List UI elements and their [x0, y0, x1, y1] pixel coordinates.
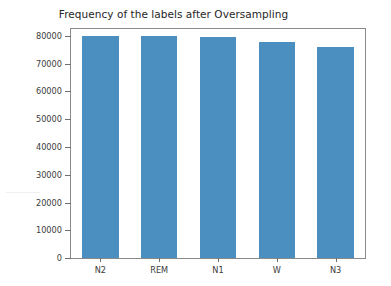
- y-axis-tick-mark: [65, 119, 71, 120]
- x-axis-tick-mark: [159, 258, 160, 262]
- x-axis-tick-mark: [277, 258, 278, 262]
- x-axis-tick-label: REM: [150, 265, 168, 275]
- y-axis-tick-label: 40000: [36, 142, 62, 152]
- y-axis-tick-label: 30000: [36, 170, 62, 180]
- y-axis-tick-label: 60000: [36, 86, 62, 96]
- bar: [200, 37, 236, 258]
- y-axis-tick-mark: [65, 36, 71, 37]
- y-axis-tick-label: 0: [57, 253, 62, 263]
- x-axis-tick-label: W: [273, 265, 281, 275]
- margin-artifact: [6, 192, 40, 193]
- y-axis-tick-mark: [65, 64, 71, 65]
- x-axis-tick-mark: [336, 258, 337, 262]
- x-axis-tick-label: N3: [330, 265, 341, 275]
- plot-axes: 0100002000030000400005000060000700008000…: [70, 28, 366, 259]
- x-axis-tick-mark: [100, 258, 101, 262]
- y-axis-tick-label: 80000: [36, 31, 62, 41]
- y-axis-tick-label: 50000: [36, 114, 62, 124]
- plot-area: 0100002000030000400005000060000700008000…: [71, 29, 365, 258]
- bar: [82, 36, 118, 258]
- y-axis-tick-mark: [65, 175, 71, 176]
- bar: [317, 47, 353, 258]
- x-axis-tick-label: N2: [95, 265, 106, 275]
- y-axis-tick-label: 10000: [36, 225, 62, 235]
- y-axis-tick-mark: [65, 91, 71, 92]
- y-axis-tick-mark: [65, 147, 71, 148]
- bar: [259, 42, 295, 259]
- figure-canvas: Frequency of the labels after Oversampli…: [0, 0, 391, 286]
- y-axis-tick-mark: [65, 258, 71, 259]
- y-axis-tick-label: 70000: [36, 59, 62, 69]
- y-axis-tick-mark: [65, 230, 71, 231]
- chart-title: Frequency of the labels after Oversampli…: [0, 8, 369, 20]
- bar: [141, 36, 177, 258]
- y-axis-tick-mark: [65, 203, 71, 204]
- y-axis-tick-label: 20000: [36, 198, 62, 208]
- x-axis-tick-label: N1: [212, 265, 223, 275]
- x-axis-tick-mark: [218, 258, 219, 262]
